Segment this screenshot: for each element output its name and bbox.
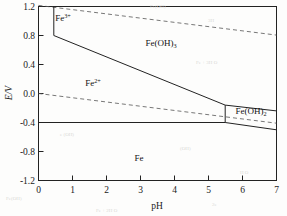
- species-label-fe2: Fe2+: [85, 77, 101, 88]
- fe3-feoh3-boundary: [54, 36, 225, 106]
- species-subscript: 2: [263, 110, 266, 117]
- y-tick-label: -1.2: [20, 176, 35, 186]
- plot-frame: [39, 7, 277, 181]
- y-tick-label: 0.8: [23, 31, 35, 41]
- y-axis-tick-labels: 1.2 0.8 0.4 0.0 -0.4 -0.8 -1.2: [20, 2, 35, 186]
- species-label-fe-metal: Fe: [135, 153, 144, 163]
- x-tick-label: 6: [240, 185, 245, 195]
- species-label-fe3: Fe3+: [55, 12, 71, 23]
- species-base: Fe: [135, 153, 144, 163]
- x-axis-title: pH: [151, 201, 163, 211]
- y-tick-label: 1.2: [23, 2, 35, 12]
- species-base: Fe(OH): [235, 106, 263, 116]
- feoh2-fe-boundary: [225, 123, 276, 130]
- species-superscript: 3+: [64, 12, 71, 19]
- x-axis-tick-labels: 0 1 2 3 4 5 6 7: [36, 185, 279, 195]
- pourbaix-figure: 1.2 0.8 0.4 0.0 -0.4 -0.8 -1.2 0 1 2 3 4: [0, 0, 287, 216]
- x-axis-ticks: [39, 176, 277, 181]
- species-labels: Fe3+ Fe(OH)3 Fe2+ Fe(OH)2 Fe: [55, 12, 266, 163]
- species-base: Fe(OH): [145, 38, 173, 48]
- species-superscript: 2+: [94, 77, 101, 84]
- x-tick-label: 5: [206, 185, 211, 195]
- species-base: Fe: [55, 13, 64, 23]
- species-label-fe-oh-2: Fe(OH)2: [235, 106, 266, 117]
- y-tick-label: -0.4: [20, 118, 35, 128]
- x-tick-label: 2: [104, 185, 109, 195]
- x-tick-label: 3: [138, 185, 143, 195]
- pourbaix-chart: 1.2 0.8 0.4 0.0 -0.4 -0.8 -1.2 0 1 2 3 4: [0, 0, 287, 216]
- x-tick-label: 0: [36, 185, 41, 195]
- y-axis-title: E/V: [4, 85, 14, 101]
- y-tick-label: -0.8: [20, 147, 35, 157]
- o2-h2o-line: [39, 5, 277, 35]
- species-label-fe-oh-3: Fe(OH)3: [145, 38, 176, 49]
- y-tick-label: 0.4: [23, 60, 35, 70]
- species-base: Fe: [85, 78, 94, 88]
- x-tick-label: 1: [70, 185, 75, 195]
- y-tick-label: 0.0: [23, 89, 35, 99]
- x-tick-label: 4: [172, 185, 177, 195]
- species-subscript: 3: [173, 42, 176, 49]
- x-tick-label: 7: [274, 185, 279, 195]
